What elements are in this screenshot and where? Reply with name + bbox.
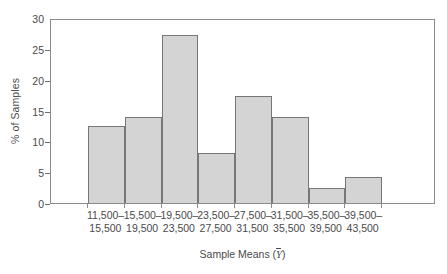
x-axis-category-label-line1: 23,500–: [197, 209, 235, 221]
histogram-bar[interactable]: [235, 96, 272, 203]
x-axis-category-label-line1: 31,500–: [271, 209, 309, 221]
bar-slot: [162, 20, 199, 203]
y-axis-tick-label: 10: [22, 137, 44, 148]
x-axis-category-label: 15,500–19,500: [124, 209, 161, 235]
x-axis-title: Sample Means (Y): [50, 248, 435, 260]
x-axis-category-label-line1: 35,500–: [308, 209, 346, 221]
bars-container: [51, 20, 434, 203]
x-axis-category-label-line2: 27,500: [197, 222, 234, 235]
x-axis-category-label-line1: 19,500–: [161, 209, 199, 221]
x-axis-category-label-line2: 15,500: [87, 222, 124, 235]
x-axis-category-label: 19,500–23,500: [161, 209, 198, 235]
x-axis-tick-mark: [308, 204, 309, 208]
y-axis-tick-label: 15: [22, 106, 44, 117]
y-axis-tick-label: 5: [22, 168, 44, 179]
histogram-bar[interactable]: [88, 126, 125, 203]
x-axis-category-label: 27,500–31,500: [234, 209, 271, 235]
x-axis-tick-mark: [197, 204, 198, 208]
x-axis-category-label-line2: 19,500: [124, 222, 161, 235]
x-axis-title-variable: Y: [276, 249, 282, 260]
bar-slot: [88, 20, 125, 203]
x-axis-category-label-line2: 23,500: [161, 222, 198, 235]
y-axis-tick-label: 25: [22, 45, 44, 56]
bar-slot: [125, 20, 162, 203]
histogram-bar[interactable]: [272, 117, 309, 203]
x-axis-category-label: 31,500–35,500: [271, 209, 308, 235]
y-axis-tick-label: 0: [22, 199, 44, 210]
y-axis-tick-label: 30: [22, 14, 44, 25]
x-axis-tick-mark: [234, 204, 235, 208]
bar-slot: [272, 20, 309, 203]
bar-slot: [198, 20, 235, 203]
x-axis-category-labels: 11,500–15,50015,500–19,50019,500–23,5002…: [50, 209, 435, 241]
histogram-bar[interactable]: [345, 177, 382, 203]
histogram-chart: % of Samples 051015202530 11,500–15,5001…: [0, 0, 447, 274]
x-axis-tick-mark: [381, 204, 382, 208]
x-axis-category-label-line1: 27,500–: [234, 209, 272, 221]
histogram-bar[interactable]: [309, 188, 346, 203]
x-axis-tick-mark: [87, 204, 88, 208]
x-axis-category-label-line1: 39,500–: [344, 209, 382, 221]
x-axis-category-label-line2: 35,500: [271, 222, 308, 235]
histogram-bar[interactable]: [198, 153, 235, 203]
y-axis-tick-labels: 051015202530: [22, 12, 44, 210]
x-axis-category-label-line2: 39,500: [308, 222, 345, 235]
y-axis-tick-label: 20: [22, 75, 44, 86]
histogram-bar[interactable]: [162, 35, 199, 203]
x-axis-category-label: 11,500–15,500: [87, 209, 124, 235]
x-axis-category-label-line1: 15,500–: [124, 209, 162, 221]
bar-slot: [235, 20, 272, 203]
x-axis-title-suffix: ): [282, 248, 286, 260]
x-axis-tick-mark: [124, 204, 125, 208]
bar-slot: [345, 20, 382, 203]
x-axis-tick-mark: [271, 204, 272, 208]
x-axis-title-prefix: Sample Means (: [200, 248, 276, 260]
x-axis-category-label-line2: 31,500: [234, 222, 271, 235]
x-axis-tick-mark: [161, 204, 162, 208]
x-axis-category-label: 23,500–27,500: [197, 209, 234, 235]
x-axis-category-label-line1: 11,500–: [87, 209, 124, 221]
x-axis-category-label: 35,500–39,500: [308, 209, 345, 235]
x-axis-category-label: 39,500–43,500: [344, 209, 381, 235]
bar-slot: [309, 20, 346, 203]
x-axis-tick-mark: [344, 204, 345, 208]
x-axis-category-label-line2: 43,500: [344, 222, 381, 235]
histogram-bar[interactable]: [125, 117, 162, 203]
plot-area-frame: [50, 19, 435, 204]
y-axis-title-text: % of Samples: [9, 78, 21, 144]
